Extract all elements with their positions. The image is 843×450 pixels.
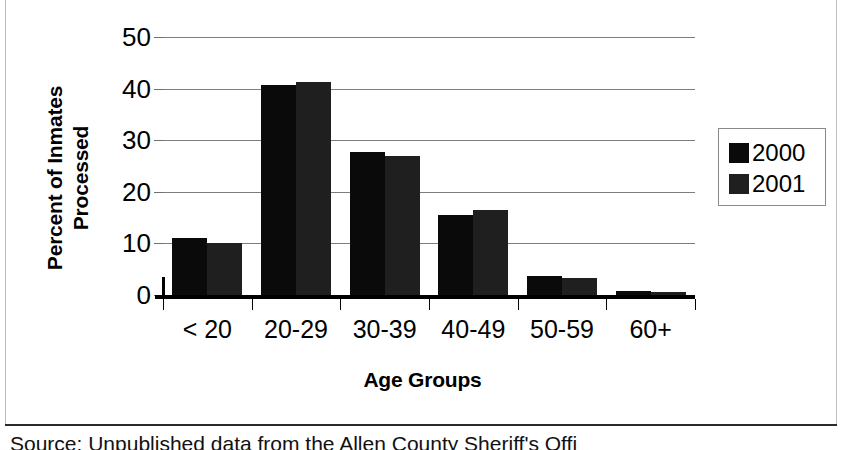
- bar-group: [527, 37, 597, 295]
- bar-2000-5059: [527, 276, 562, 295]
- legend-swatch-2000: [729, 143, 749, 163]
- y-tick-mark: [154, 192, 163, 193]
- x-tick-mark: [252, 299, 253, 310]
- x-tick-label: 50-59: [518, 315, 607, 343]
- bar-group: [616, 37, 686, 295]
- bar-2001-2029: [296, 82, 331, 295]
- figure-container: Percent of Inmates Processed Age Groups …: [0, 0, 843, 450]
- bar-2000-2029: [261, 85, 296, 295]
- bar-group: [172, 37, 242, 295]
- y-tick-label: 30: [122, 127, 151, 153]
- y-axis-line: [162, 277, 165, 299]
- source-caption: Source: Unpublished data from the Allen …: [10, 432, 835, 450]
- x-tick-label: 60+: [606, 315, 695, 343]
- y-tick-mark: [154, 37, 163, 38]
- x-axis-line: [155, 295, 695, 299]
- legend-label: 2001: [752, 172, 805, 196]
- y-tick-label: 50: [122, 24, 151, 50]
- x-tick-mark: [518, 299, 519, 310]
- x-tick-label: 20-29: [252, 315, 341, 343]
- y-tick-label: 40: [122, 76, 151, 102]
- bar-2001-4049: [473, 210, 508, 295]
- y-tick-mark: [154, 140, 163, 141]
- bar-2001-3039: [385, 156, 420, 295]
- x-tick-mark: [606, 299, 607, 310]
- x-tick-label: < 20: [163, 315, 252, 343]
- legend-label: 2000: [752, 141, 805, 165]
- legend-swatch-2001: [729, 174, 749, 194]
- y-tick-label: 10: [122, 230, 151, 256]
- y-tick-label: 20: [122, 179, 151, 205]
- y-axis-title: Percent of Inmates Processed: [42, 48, 94, 308]
- x-tick-label: 40-49: [429, 315, 518, 343]
- x-tick-mark: [429, 299, 430, 310]
- legend-box: 20002001: [718, 128, 826, 206]
- legend-entry-2000: 2000: [729, 137, 825, 168]
- legend-entry-2001: 2001: [729, 168, 825, 199]
- bar-2001-5059: [562, 278, 597, 295]
- bar-2000-20: [172, 238, 207, 295]
- figure-border-right: [836, 0, 837, 424]
- figure-border-left: [5, 0, 6, 424]
- x-tick-label: 30-39: [340, 315, 429, 343]
- bar-2001-20: [207, 243, 242, 295]
- plot-area: 01020304050 < 2020-2930-3940-4950-5960+: [163, 37, 695, 295]
- bar-group: [438, 37, 508, 295]
- x-tick-mark: [695, 299, 696, 310]
- bar-group: [261, 37, 331, 295]
- y-tick-label: 0: [137, 282, 151, 308]
- x-tick-mark: [340, 299, 341, 310]
- bar-group: [350, 37, 420, 295]
- y-tick-mark: [154, 243, 163, 244]
- bar-2000-4049: [438, 215, 473, 295]
- figure-border-bottom: [5, 424, 837, 426]
- bar-2000-3039: [350, 152, 385, 295]
- x-axis-title: Age Groups: [150, 368, 695, 392]
- x-tick-mark: [163, 299, 164, 310]
- y-tick-mark: [154, 89, 163, 90]
